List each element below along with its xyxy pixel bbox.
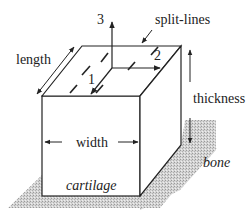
cartilage-block-diagram: 3 2 1 split-lines length thickness width… (0, 0, 252, 219)
axis-2-label: 2 (154, 48, 161, 63)
thickness-label: thickness (193, 91, 245, 106)
length-label: length (16, 52, 51, 67)
split-lines-pointer (142, 30, 152, 43)
bone-label: bone (203, 155, 230, 170)
cartilage-label: cartilage (66, 178, 117, 193)
split-lines-label: split-lines (155, 12, 210, 27)
axis-1-label: 1 (88, 72, 95, 87)
axis-3-label: 3 (97, 12, 104, 27)
width-label: width (76, 135, 108, 150)
